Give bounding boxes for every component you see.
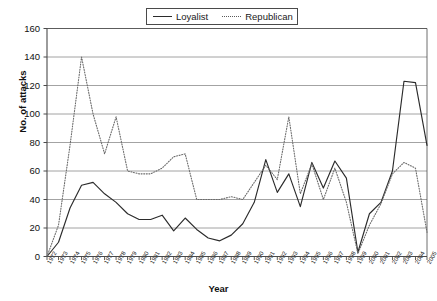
legend-entry-republican: Republican bbox=[222, 9, 293, 24]
chart-container: Loyalist Republican No. of attacks Year … bbox=[0, 0, 437, 301]
series-line-loyalist bbox=[47, 81, 427, 256]
legend-entry-loyalist: Loyalist bbox=[153, 9, 208, 24]
legend-label-loyalist: Loyalist bbox=[176, 12, 208, 22]
legend-line-dotted-icon bbox=[222, 16, 241, 17]
series-line-republican bbox=[47, 57, 427, 257]
plot-area bbox=[0, 0, 437, 301]
legend-line-solid-icon bbox=[153, 16, 172, 17]
chart-legend: Loyalist Republican bbox=[146, 8, 298, 25]
legend-label-republican: Republican bbox=[245, 12, 293, 22]
